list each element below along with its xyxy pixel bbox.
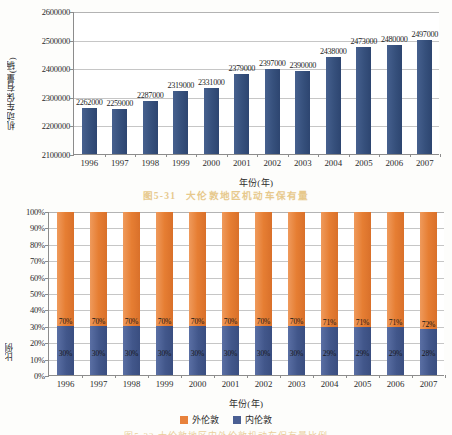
chart1-x-tick-label: 2002	[263, 158, 281, 168]
chart1-x-tick-label: 2005	[355, 158, 373, 168]
chart2-segment-inner-london: 30%	[156, 326, 173, 375]
chart2-gridline	[49, 245, 444, 246]
chart1-x-tick-mark	[227, 154, 228, 157]
chart2-x-tick-mark	[280, 375, 281, 378]
chart1-data-label: 2259000	[106, 99, 133, 108]
chart1-x-tick-label: 1996	[80, 158, 98, 168]
chart1-gridline	[74, 126, 439, 127]
chart2-legend-item[interactable]: 外伦敦	[180, 413, 219, 426]
chart1-y-tick-mark	[70, 155, 74, 156]
chart1-data-label: 2480000	[381, 35, 408, 44]
legend-swatch-icon	[233, 416, 241, 424]
chart1-y-tick-mark	[70, 126, 74, 127]
chart1-x-tick-mark	[349, 154, 350, 157]
chart2-y-tick-mark	[45, 261, 49, 262]
chart1-x-tick-label: 1997	[111, 158, 129, 168]
chart2-x-tick-label: 2006	[387, 379, 405, 389]
figure-page: 机动车保有量(辆) 210000022000002300000240000025…	[0, 0, 452, 435]
chart2-y-tick-mark	[45, 212, 49, 213]
chart2-gridline	[49, 212, 444, 213]
chart2-label-outer-london: 70%	[59, 316, 72, 325]
chart2-segment-outer-london: 70%	[222, 212, 239, 327]
chart2-x-tick-mark	[445, 375, 446, 378]
chart1-x-tick-label: 1999	[172, 158, 190, 168]
chart2-x-tick-mark	[115, 375, 116, 378]
chart2-gridline	[49, 327, 444, 328]
chart2-y-tick-label: 40%	[30, 305, 45, 315]
chart1-bar	[356, 47, 371, 154]
chart2-segment-inner-london: 29%	[321, 327, 338, 375]
chart2-stacked-bar: 70%30%	[288, 212, 305, 375]
chart2-stacked-bar: 70%30%	[255, 212, 272, 375]
chart2-segment-outer-london: 71%	[354, 212, 371, 328]
chart2-stacked-bar: 71%29%	[321, 212, 338, 375]
chart2-x-tick-label: 2007	[420, 379, 438, 389]
chart2-x-tick-mark	[247, 375, 248, 378]
chart1-data-label: 2287000	[137, 91, 164, 100]
chart1-x-tick-label: 1998	[141, 158, 159, 168]
chart2-segment-inner-london: 30%	[189, 326, 206, 375]
chart2-label-outer-london: 71%	[389, 318, 402, 327]
chart2-stacked-bar: 70%30%	[189, 212, 206, 375]
chart1-y-tick-mark	[70, 98, 74, 99]
next-figure-caption-partial: 图5-32 大伦敦地区内外伦敦机动车保有量比例	[0, 429, 452, 435]
chart2-label-inner-london: 29%	[356, 349, 369, 358]
chart1-x-tick-mark	[379, 154, 380, 157]
chart2-y-tick-label: 60%	[30, 273, 45, 283]
chart2-x-tick-label: 1996	[57, 379, 75, 389]
chart2-label-inner-london: 28%	[422, 349, 435, 358]
chart2-segment-inner-london: 30%	[288, 326, 305, 375]
chart2-label-outer-london: 70%	[125, 316, 138, 325]
chart2-label-outer-london: 72%	[422, 320, 435, 329]
chart2-segment-outer-london: 72%	[420, 212, 437, 330]
chart2-label-inner-london: 30%	[158, 349, 171, 358]
chart1-y-tick-label: 2200000	[42, 121, 70, 131]
chart2-gridline	[49, 360, 444, 361]
chart2-label-outer-london: 70%	[191, 316, 204, 325]
chart1-x-tick-label: 2004	[324, 158, 342, 168]
chart2-y-tick-mark	[45, 360, 49, 361]
chart1-y-tick-label: 2500000	[42, 36, 70, 46]
chart1-y-axis-title: 机动车保有量(辆)	[6, 22, 18, 130]
chart2-stacked-bar: 70%30%	[123, 212, 140, 375]
chart1-x-tick-label: 2003	[294, 158, 312, 168]
chart2-label-outer-london: 70%	[224, 316, 237, 325]
chart2-y-tick-label: 0%	[34, 371, 45, 381]
chart2-x-tick-label: 2001	[222, 379, 240, 389]
figure-caption: 图5-31大伦敦地区机动车保有量	[0, 188, 452, 202]
chart2-gridline	[49, 310, 444, 311]
chart1-data-label: 2262000	[76, 98, 103, 107]
chart2-segment-outer-london: 70%	[90, 212, 107, 327]
chart2-y-tick-label: 100%	[26, 207, 45, 217]
chart2-x-tick-mark	[148, 375, 149, 378]
chart1-y-tick-label: 2100000	[42, 150, 70, 160]
chart2-segment-outer-london: 70%	[57, 212, 74, 327]
chart2-x-tick-label: 2002	[255, 379, 273, 389]
chart1-x-tick-label: 2001	[233, 158, 251, 168]
chart2-label-inner-london: 30%	[125, 349, 138, 358]
chart2-stacked-bar: 71%29%	[354, 212, 371, 375]
chart2-y-tick-mark	[45, 294, 49, 295]
chart-london-share: 比例 0%10%20%30%40%50%60%70%80%90%100%70%3…	[0, 205, 452, 430]
chart1-data-label: 2331000	[198, 78, 225, 87]
chart2-x-tick-mark	[412, 375, 413, 378]
chart2-x-tick-label: 2004	[321, 379, 339, 389]
chart1-data-label: 2397000	[259, 59, 286, 68]
chart2-y-tick-mark	[45, 310, 49, 311]
chart1-bar	[326, 57, 341, 154]
chart1-x-tick-mark	[318, 154, 319, 157]
chart2-y-tick-mark	[45, 343, 49, 344]
chart2-label-outer-london: 70%	[92, 316, 105, 325]
chart2-label-inner-london: 29%	[389, 349, 402, 358]
chart2-y-tick-label: 30%	[30, 322, 45, 332]
chart2-gridline	[49, 343, 444, 344]
chart2-segment-outer-london: 70%	[123, 212, 140, 327]
chart2-x-tick-mark	[214, 375, 215, 378]
chart1-data-label: 2438000	[320, 47, 347, 56]
chart2-label-inner-london: 30%	[224, 349, 237, 358]
chart1-bar	[82, 108, 97, 154]
chart1-bar	[295, 71, 310, 154]
chart-vehicle-stock: 机动车保有量(辆) 210000022000002300000240000025…	[0, 0, 452, 178]
chart2-segment-inner-london: 30%	[90, 326, 107, 375]
chart2-legend-item[interactable]: 内伦敦	[233, 413, 272, 426]
